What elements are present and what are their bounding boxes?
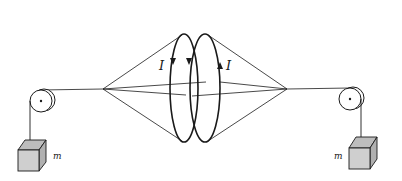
right-pulley-axle (349, 98, 351, 100)
right-string-horizontal (287, 88, 350, 89)
left-string-horizontal (41, 89, 103, 90)
left-suspension-mid2 (103, 89, 186, 95)
current-label-right: I (226, 59, 231, 72)
mass-label-left: m (53, 152, 62, 161)
left-mass-block (18, 140, 46, 171)
right-coil (190, 34, 220, 142)
two-coil-pulley-diagram: I I m m (0, 0, 402, 181)
right-suspension-mid2 (192, 89, 287, 96)
mass-label-right: m (334, 152, 343, 161)
left-pulley-axle (40, 100, 42, 102)
right-mass-block (349, 137, 377, 169)
right-suspension-mid1 (220, 82, 287, 89)
current-label-left: I (159, 59, 164, 72)
